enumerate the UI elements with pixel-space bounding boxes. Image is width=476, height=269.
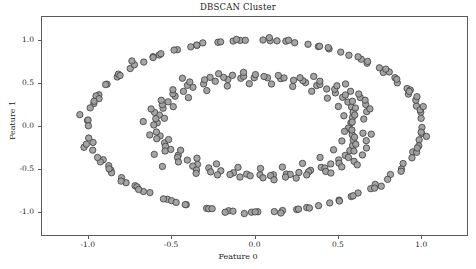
scatter-point xyxy=(215,71,221,77)
scatter-point xyxy=(352,105,358,111)
scatter-point xyxy=(207,74,213,80)
scatter-point xyxy=(290,83,296,89)
scatter-point xyxy=(90,147,96,153)
x-tick-label: -1.0 xyxy=(68,240,108,249)
y-tick-mark xyxy=(38,212,41,213)
x-tick-label: 0.5 xyxy=(318,240,358,249)
scatter-point xyxy=(351,134,357,140)
scatter-point xyxy=(371,185,377,191)
scatter-point xyxy=(398,168,404,174)
x-axis-label: Feature 0 xyxy=(0,252,476,261)
scatter-point xyxy=(240,69,246,75)
y-tick-mark xyxy=(38,83,41,84)
scatter-point xyxy=(158,51,164,57)
x-tick-mark xyxy=(255,236,256,239)
scatter-point xyxy=(290,77,296,83)
scatter-point xyxy=(325,44,331,50)
scatter-point xyxy=(268,81,274,87)
scatter-point xyxy=(420,103,426,109)
scatter-point xyxy=(177,147,183,153)
scatter-point xyxy=(305,41,311,47)
page-title: DBSCAN Cluster xyxy=(0,2,476,13)
scatter-point xyxy=(261,73,267,79)
x-tick-label: 0.0 xyxy=(235,240,275,249)
scatter-point xyxy=(213,161,219,167)
scatter-point xyxy=(252,71,258,77)
scatter-point xyxy=(297,75,303,81)
scatter-point xyxy=(275,72,281,78)
y-tick-mark xyxy=(38,169,41,170)
scatter-point xyxy=(316,43,322,49)
scatter-point xyxy=(151,151,157,157)
scatter-point xyxy=(274,38,280,44)
scatter-point xyxy=(324,95,330,101)
scatter-point xyxy=(328,161,334,167)
scatter-point xyxy=(154,136,160,142)
x-tick-label: 1.0 xyxy=(401,240,441,249)
scatter-point xyxy=(350,193,356,199)
scatter-series xyxy=(77,34,430,216)
scatter-point xyxy=(345,154,351,160)
scatter-point xyxy=(354,162,360,168)
scatter-point xyxy=(94,154,100,160)
scatter-point xyxy=(209,205,215,211)
scatter-point xyxy=(355,54,361,60)
scatter-point xyxy=(349,127,355,133)
scatter-point xyxy=(363,138,369,144)
scatter-point xyxy=(394,76,400,82)
scatter-point xyxy=(423,133,429,139)
scatter-point xyxy=(102,81,108,87)
scatter-point xyxy=(351,148,357,154)
scatter-point xyxy=(194,42,200,48)
y-tick-label: -0.5 xyxy=(8,164,34,173)
x-tick-mark xyxy=(338,236,339,239)
scatter-point xyxy=(293,175,299,181)
scatter-point xyxy=(257,165,263,171)
scatter-point xyxy=(383,66,389,72)
scatter-point xyxy=(160,196,166,202)
scatter-point xyxy=(207,169,213,175)
scatter-point xyxy=(106,166,112,172)
scatter-point xyxy=(227,171,233,177)
scatter-point xyxy=(153,129,159,135)
scatter-point xyxy=(292,40,298,46)
scatter-point xyxy=(356,91,362,97)
scatter-point xyxy=(180,88,186,94)
scatter-point xyxy=(361,116,367,122)
scatter-point xyxy=(341,113,347,119)
scatter-point xyxy=(335,103,341,109)
scatter-points-layer xyxy=(41,16,468,236)
scatter-point xyxy=(349,98,355,104)
scatter-point xyxy=(339,164,345,170)
scatter-point xyxy=(171,47,177,53)
scatter-point xyxy=(184,157,190,163)
scatter-point xyxy=(237,174,243,180)
scatter-point xyxy=(193,170,199,176)
scatter-point xyxy=(214,172,220,178)
scatter-point xyxy=(147,132,153,138)
scatter-point xyxy=(158,97,164,103)
scatter-point xyxy=(271,208,277,214)
scatter-point xyxy=(204,87,210,93)
scatter-point xyxy=(159,163,165,169)
scatter-point xyxy=(368,131,374,137)
scatter-point xyxy=(334,83,340,89)
scatter-svg xyxy=(41,16,468,236)
x-tick-mark xyxy=(88,236,89,239)
scatter-point xyxy=(129,58,135,64)
y-axis-label: Feature 1 xyxy=(8,81,17,161)
scatter-point xyxy=(328,170,334,176)
scatter-point xyxy=(87,105,93,111)
scatter-point xyxy=(77,111,83,117)
scatter-point xyxy=(409,155,415,161)
scatter-point xyxy=(376,65,382,71)
y-tick-mark xyxy=(38,126,41,127)
scatter-point xyxy=(309,88,315,94)
scatter-point xyxy=(246,81,252,87)
scatter-point xyxy=(367,106,373,112)
scatter-point xyxy=(285,37,291,43)
scatter-point xyxy=(384,176,390,182)
scatter-point xyxy=(235,164,241,170)
scatter-point xyxy=(341,128,347,134)
scatter-point xyxy=(353,141,359,147)
